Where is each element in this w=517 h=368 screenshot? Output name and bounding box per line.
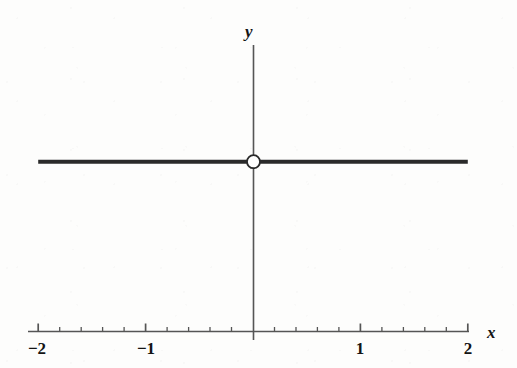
x-axis-label: x (487, 324, 496, 341)
y-axis-label: y (245, 23, 253, 40)
graph-canvas (0, 0, 517, 368)
x-tick-label-2: 2 (448, 340, 488, 357)
x-tick-label-neg1: −1 (126, 340, 166, 357)
x-tick-label-neg2: −2 (17, 340, 57, 357)
graph-figure: −2 −1 1 2 x y (0, 0, 517, 368)
x-tick-label-1: 1 (340, 340, 380, 357)
open-circle-hole-marker (247, 155, 260, 168)
